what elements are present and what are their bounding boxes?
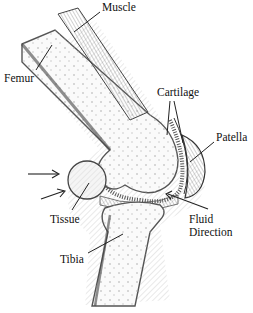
label-direction: Direction (189, 226, 232, 238)
label-tissue: Tissue (50, 213, 80, 225)
label-cartilage: Cartilage (157, 86, 199, 98)
knee-joint-diagram (0, 0, 253, 313)
label-patella: Patella (216, 131, 247, 143)
label-muscle: Muscle (102, 1, 136, 13)
tissue-pad (68, 161, 106, 199)
inflow-arrow-lower-icon (41, 189, 65, 199)
cartilage-leader-1 (167, 101, 170, 135)
label-femur: Femur (4, 72, 34, 84)
inflow-arrow-upper-icon (28, 170, 59, 178)
label-fluid: Fluid (189, 213, 213, 225)
label-tibia: Tibia (60, 253, 84, 265)
